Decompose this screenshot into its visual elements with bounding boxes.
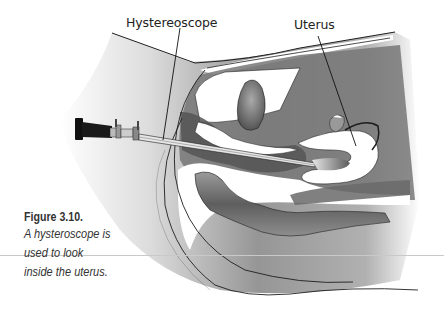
uterus-label: Uterus [294,17,335,32]
hysteroscope-label: Hystereoscope [126,15,217,30]
caption-text: A hysteroscope is used to look inside th… [24,225,138,282]
figure-caption: Figure 3.10. A hysteroscope is used to l… [24,208,134,282]
hysteroscopy-diagram: Hystereoscope Uterus Figure 3.10. A hyst… [0,0,444,311]
